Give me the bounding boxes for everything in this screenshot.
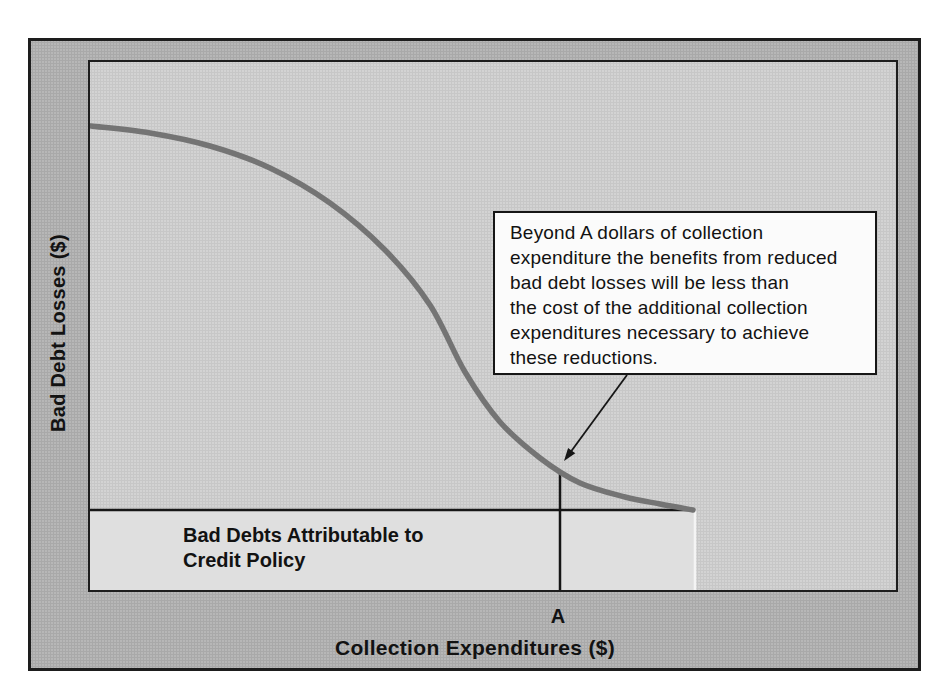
plot-area: Bad Debts Attributable to Credit Policy … — [88, 60, 898, 592]
marker-a-label: A — [551, 605, 565, 628]
annotation-arrowhead-icon — [564, 448, 575, 461]
annotation-arrow-line — [568, 375, 627, 456]
annotation-text: Beyond A dollars of collection expenditu… — [510, 220, 863, 370]
figure-panel: Bad Debt Losses ($) Bad Debts Attributab… — [28, 38, 921, 671]
annotation-box: Beyond A dollars of collection expenditu… — [493, 211, 877, 375]
y-axis-label: Bad Debt Losses ($) — [47, 234, 70, 432]
x-axis-label: Collection Expenditures ($) — [335, 636, 615, 660]
page: { "figure": { "ylabel": "Bad Debt Losses… — [0, 0, 945, 700]
baseline-label: Bad Debts Attributable to Credit Policy — [183, 523, 423, 573]
